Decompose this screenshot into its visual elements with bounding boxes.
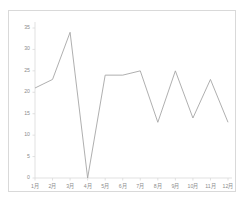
x-tick-label: 1月 (31, 184, 39, 189)
x-tick-label: 10月 (188, 184, 199, 189)
y-tick-label: 25 (9, 68, 30, 73)
x-tick-label: 12月 (223, 184, 234, 189)
y-tick-label: 0 (9, 175, 30, 180)
y-tick-label: 35 (9, 25, 30, 30)
x-tick-label: 2月 (49, 184, 57, 189)
x-tick-label: 3月 (66, 184, 74, 189)
x-tick-label: 9月 (171, 184, 179, 189)
x-tick-label: 7月 (136, 184, 144, 189)
x-tick-label: 11月 (205, 184, 215, 189)
y-tick-label: 30 (9, 47, 30, 52)
x-tick-label: 6月 (119, 184, 127, 189)
x-tick-label: 5月 (101, 184, 109, 189)
y-tick-label: 5 (9, 154, 30, 159)
chart-container: 05101520253035 1月2月3月4月5月6月7月8月9月10月11月1… (8, 10, 236, 192)
line-chart-svg (9, 11, 237, 193)
y-tick-label: 20 (9, 90, 30, 95)
y-tick-label: 15 (9, 111, 30, 116)
y-tick-label: 10 (9, 133, 30, 138)
data-series-line (35, 32, 228, 178)
x-tick-label: 4月 (84, 184, 92, 189)
plot-area: 05101520253035 1月2月3月4月5月6月7月8月9月10月11月1… (9, 11, 237, 193)
x-tick-label: 8月 (154, 184, 162, 189)
axis-lines (35, 22, 232, 178)
